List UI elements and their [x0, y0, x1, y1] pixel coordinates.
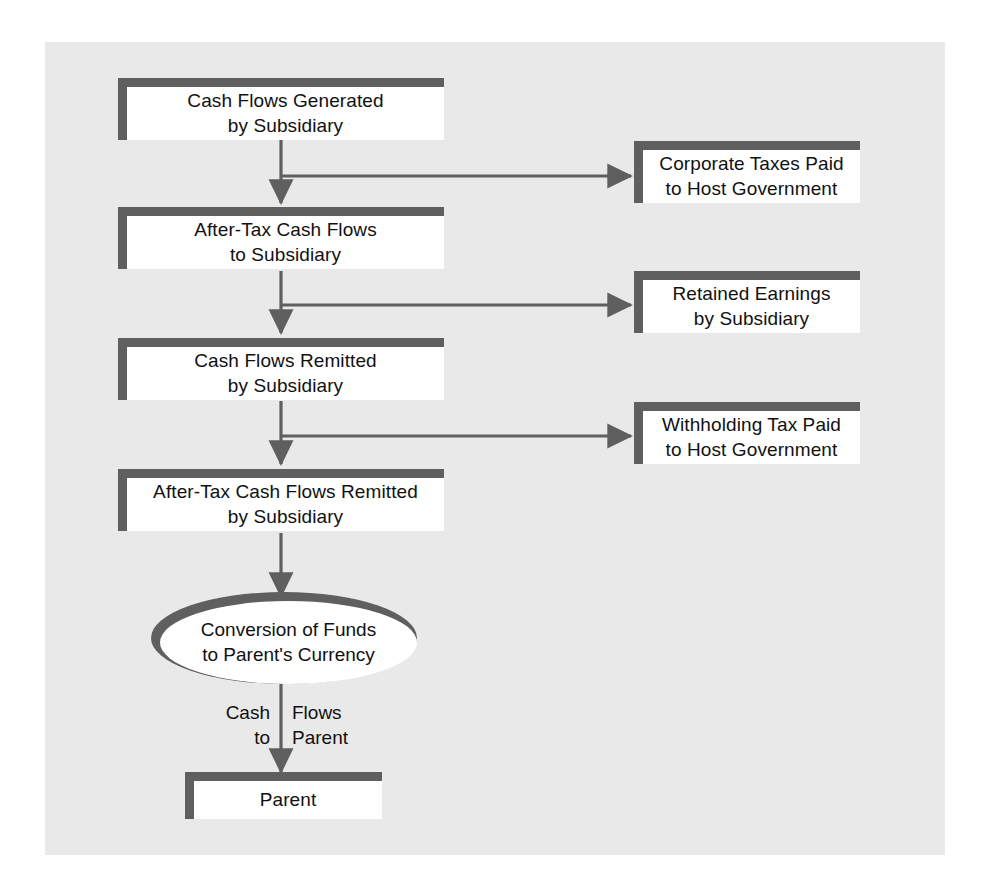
- node-line-1: After-Tax Cash Flows: [194, 219, 377, 240]
- node-cash-flows-generated-text: Cash Flows Generated by Subsidiary: [179, 89, 391, 138]
- node-corporate-taxes-paid[interactable]: Corporate Taxes Paid to Host Government: [634, 141, 860, 203]
- node-line-1: Retained Earnings: [672, 283, 830, 304]
- ellipse-face: Conversion of Funds to Parent's Currency: [160, 601, 417, 684]
- node-line-2: by Subsidiary: [694, 308, 809, 329]
- flow-label-left-line-1: Cash: [226, 702, 270, 723]
- node-retained-earnings-text: Retained Earnings by Subsidiary: [664, 282, 838, 331]
- node-conversion-of-funds-text: Conversion of Funds to Parent's Currency: [201, 618, 376, 667]
- diagram-canvas: Cash Flows Generated by Subsidiary After…: [0, 0, 988, 891]
- node-parent[interactable]: Parent: [185, 772, 382, 819]
- node-withholding-tax-paid-text: Withholding Tax Paid to Host Government: [654, 413, 849, 462]
- node-after-tax-cash-flows[interactable]: After-Tax Cash Flows to Subsidiary: [118, 207, 444, 269]
- node-corporate-taxes-paid-text: Corporate Taxes Paid to Host Government: [651, 152, 851, 201]
- node-line-2: to Parent's Currency: [202, 644, 375, 665]
- node-line-2: by Subsidiary: [228, 115, 343, 136]
- node-line-2: to Subsidiary: [230, 244, 341, 265]
- node-after-tax-cash-flows-remitted[interactable]: After-Tax Cash Flows Remitted by Subsidi…: [118, 469, 444, 531]
- node-line-2: to Host Government: [666, 178, 838, 199]
- flow-label-right: Flows Parent: [292, 700, 402, 750]
- node-after-tax-cash-flows-text: After-Tax Cash Flows to Subsidiary: [186, 218, 385, 267]
- node-retained-earnings[interactable]: Retained Earnings by Subsidiary: [634, 271, 860, 333]
- node-after-tax-cash-flows-remitted-text: After-Tax Cash Flows Remitted by Subsidi…: [145, 480, 426, 529]
- node-line-2: by Subsidiary: [228, 375, 343, 396]
- flow-label-right-line-1: Flows: [292, 702, 342, 723]
- node-withholding-tax-paid[interactable]: Withholding Tax Paid to Host Government: [634, 402, 860, 464]
- node-parent-text: Parent: [252, 788, 325, 813]
- node-line-1: After-Tax Cash Flows Remitted: [153, 481, 418, 502]
- flow-label-left-line-2: to: [254, 727, 270, 748]
- node-line-1: Corporate Taxes Paid: [659, 153, 843, 174]
- flow-label-left: Cash to: [178, 700, 270, 750]
- node-line-1: Cash Flows Generated: [187, 90, 383, 111]
- node-cash-flows-remitted-text: Cash Flows Remitted by Subsidiary: [186, 349, 384, 398]
- node-conversion-of-funds[interactable]: Conversion of Funds to Parent's Currency: [151, 592, 417, 684]
- node-line-2: by Subsidiary: [228, 506, 343, 527]
- node-cash-flows-remitted[interactable]: Cash Flows Remitted by Subsidiary: [118, 338, 444, 400]
- node-line-2: to Host Government: [666, 439, 838, 460]
- node-line-1: Withholding Tax Paid: [662, 414, 841, 435]
- flow-label-right-line-2: Parent: [292, 727, 348, 748]
- node-line-1: Cash Flows Remitted: [194, 350, 376, 371]
- node-cash-flows-generated[interactable]: Cash Flows Generated by Subsidiary: [118, 78, 444, 140]
- node-line-1: Conversion of Funds: [201, 619, 376, 640]
